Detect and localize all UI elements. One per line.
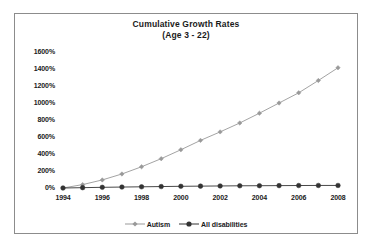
data-point-circle-marker (61, 186, 66, 191)
data-point-circle-marker (139, 185, 144, 190)
data-point-diamond-marker (159, 156, 163, 160)
data-point-diamond-marker (100, 178, 104, 182)
data-point-circle-marker (316, 183, 321, 188)
legend-entry-autism[interactable]: Autism (125, 220, 170, 228)
data-point-diamond-marker (139, 165, 143, 169)
data-point-diamond-marker (257, 111, 261, 115)
series-group (61, 66, 341, 191)
data-point-diamond-marker (218, 130, 222, 134)
data-point-circle-marker (159, 184, 164, 189)
data-point-circle-marker (336, 183, 341, 188)
data-point-circle-marker (277, 183, 282, 188)
data-point-diamond-marker (238, 121, 242, 125)
series-line (63, 68, 338, 188)
legend-label: Autism (147, 221, 170, 228)
legend-diamond-marker-icon (125, 220, 145, 228)
plot-area (15, 14, 359, 235)
data-point-circle-marker (237, 183, 242, 188)
chart-frame: Cumulative Growth Rates (Age 3 - 22) 160… (14, 13, 358, 234)
legend-label: All disabilities (201, 221, 247, 228)
series-all-disabilities (61, 183, 341, 190)
data-point-circle-marker (120, 185, 125, 190)
data-point-circle-marker (198, 184, 203, 189)
data-point-circle-marker (257, 183, 262, 188)
data-point-circle-marker (100, 185, 105, 190)
data-point-diamond-marker (198, 138, 202, 142)
data-point-diamond-marker (120, 172, 124, 176)
data-point-diamond-marker (316, 78, 320, 82)
data-point-circle-marker (296, 183, 301, 188)
data-point-diamond-marker (297, 91, 301, 95)
data-point-diamond-marker (179, 148, 183, 152)
legend-entry-all-disabilities[interactable]: All disabilities (179, 220, 247, 228)
data-point-circle-marker (80, 185, 85, 190)
data-point-diamond-marker (336, 66, 340, 70)
chart-container: Cumulative Growth Rates (Age 3 - 22) 160… (15, 14, 357, 233)
legend-circle-marker-icon (179, 220, 199, 228)
chart-legend: AutismAll disabilities (15, 220, 357, 228)
data-point-circle-marker (218, 184, 223, 189)
series-autism (61, 66, 340, 191)
data-point-circle-marker (179, 184, 184, 189)
data-point-diamond-marker (277, 101, 281, 105)
